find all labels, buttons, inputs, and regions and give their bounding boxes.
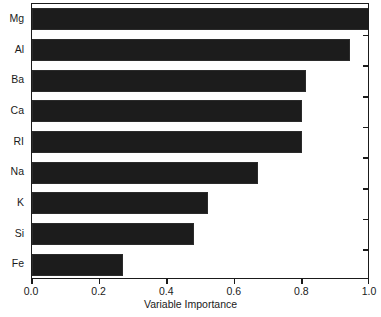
bar-row (32, 39, 368, 61)
bar-si (32, 223, 194, 245)
right-axis-tick (363, 157, 368, 159)
bar-row (32, 70, 368, 92)
x-axis-title: Variable Importance (0, 299, 381, 310)
x-tick-label-0.0: 0.0 (24, 286, 39, 297)
plot-area (31, 3, 369, 279)
bar-row (32, 223, 368, 245)
bar-na (32, 162, 258, 184)
y-tick-label-mg: Mg (9, 13, 24, 24)
bar-k (32, 192, 208, 214)
x-tick-label-0.2: 0.2 (91, 286, 106, 297)
y-axis-tick-labels: MgAlBaCaRINaKSiFe (0, 3, 28, 279)
right-axis-tick (363, 127, 368, 129)
variable-importance-bar-chart: MgAlBaCaRINaKSiFe 0.00.20.40.60.81.0 Var… (0, 0, 381, 317)
bars-layer (32, 4, 368, 278)
x-axis-tick-labels: 0.00.20.40.60.81.0 (0, 279, 381, 295)
right-axis-tick (363, 96, 368, 98)
right-axis-tick (363, 35, 368, 37)
right-axis-tick (363, 65, 368, 67)
right-axis-tick (363, 188, 368, 190)
y-tick-label-ca: Ca (11, 105, 24, 116)
bar-row (32, 254, 368, 276)
y-tick-label-fe: Fe (12, 258, 24, 269)
y-tick-label-si: Si (15, 228, 24, 239)
bar-ba (32, 70, 306, 92)
x-tick-label-0.4: 0.4 (159, 286, 174, 297)
y-tick-label-k: K (17, 197, 24, 208)
bar-mg (32, 8, 369, 30)
bar-al (32, 39, 350, 61)
bar-ca (32, 100, 302, 122)
bar-row (32, 131, 368, 153)
right-axis-tick (363, 249, 368, 251)
y-tick-label-ba: Ba (11, 74, 24, 85)
bar-fe (32, 254, 123, 276)
y-tick-label-na: Na (11, 166, 24, 177)
y-tick-label-al: Al (15, 44, 24, 55)
bar-row (32, 100, 368, 122)
x-tick-label-0.8: 0.8 (294, 286, 309, 297)
x-tick-label-1.0: 1.0 (362, 286, 377, 297)
bar-row (32, 8, 368, 30)
right-axis-tick (363, 219, 368, 221)
bar-ri (32, 131, 302, 153)
x-tick-label-0.6: 0.6 (226, 286, 241, 297)
bar-row (32, 162, 368, 184)
bar-row (32, 192, 368, 214)
y-tick-label-ri: RI (14, 136, 25, 147)
